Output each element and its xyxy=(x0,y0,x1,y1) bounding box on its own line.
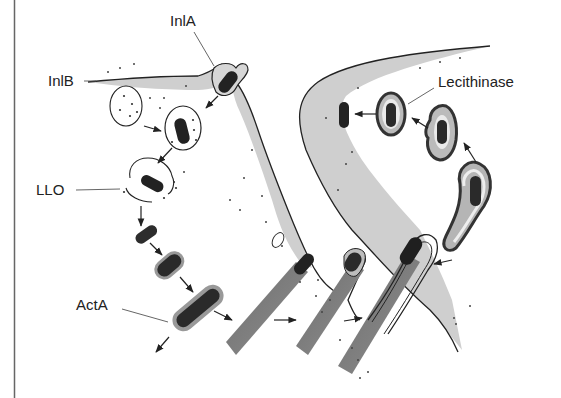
label-inlb: InlB xyxy=(48,72,74,89)
labels: InlA InlB LLO ActA Lecithinase xyxy=(36,12,514,322)
vacuole-with-bacterium xyxy=(165,106,201,150)
flow-arrows-right xyxy=(355,114,476,162)
vacuole-lysing xyxy=(123,158,177,202)
double-membrane-vacuole-2 xyxy=(426,106,457,160)
label-lecithinase: Lecithinase xyxy=(438,73,514,90)
label-acta: ActA xyxy=(76,296,108,313)
listeria-infection-diagram: InlA InlB LLO ActA Lecithinase xyxy=(0,0,561,398)
bacterium-entry xyxy=(212,64,248,96)
label-inla: InlA xyxy=(170,12,196,29)
double-membrane-vacuole-3 xyxy=(377,93,405,135)
label-llo: LLO xyxy=(36,181,64,198)
double-membrane-vacuole-1 xyxy=(444,162,490,250)
vacuole-empty xyxy=(110,86,142,126)
released-bacterium xyxy=(339,102,349,128)
